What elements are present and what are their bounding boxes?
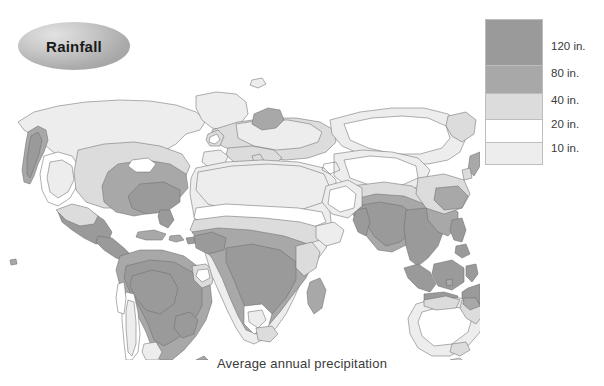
map-legend: 120 in. 80 in. 40 in. 20 in. 10 in.	[485, 19, 597, 165]
figure-caption: Average annual precipitation	[0, 356, 604, 371]
region-south-america	[116, 250, 214, 360]
legend-label-10in: 10 in.	[551, 143, 579, 155]
legend-label-column: 120 in. 80 in. 40 in. 20 in. 10 in.	[551, 19, 604, 165]
legend-swatch-20in	[486, 120, 542, 143]
region-australia-oceania	[408, 296, 480, 360]
legend-swatch-80in	[486, 66, 542, 94]
legend-swatch-40in	[486, 94, 542, 120]
rainfall-map-figure: Rainfall .l1{fill:#9a9a9a} /* 120 in. */…	[0, 0, 604, 386]
region-asia	[322, 108, 480, 266]
legend-swatch-10in	[486, 143, 542, 164]
legend-label-120in: 120 in.	[551, 41, 586, 53]
region-africa	[190, 160, 344, 344]
legend-label-80in: 80 in.	[551, 68, 579, 80]
legend-label-40in: 40 in.	[551, 95, 579, 107]
world-map-svg: .l1{fill:#9a9a9a} /* 120 in. */ .l2{fill…	[0, 60, 480, 360]
world-map: .l1{fill:#9a9a9a} /* 120 in. */ .l2{fill…	[0, 60, 480, 360]
legend-swatch-120in	[486, 20, 542, 66]
legend-label-20in: 20 in.	[551, 119, 579, 131]
legend-swatch-column	[485, 19, 543, 165]
